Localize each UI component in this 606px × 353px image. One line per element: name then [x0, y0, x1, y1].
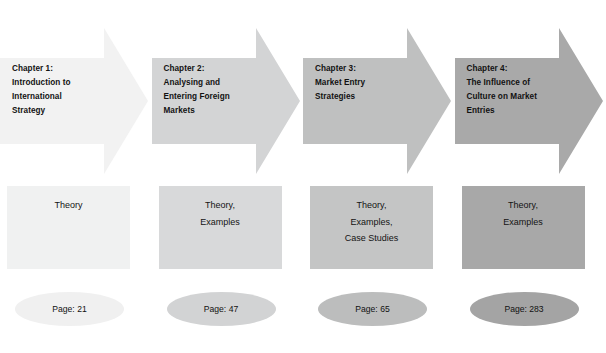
chapter-content-box-2[interactable]: Theory, Examples [159, 186, 282, 269]
chapter-content-label-4: Theory, Examples [462, 197, 585, 230]
chapter-column-3: Chapter 3: Market Entry StrategiesTheory… [303, 0, 455, 353]
chapter-page-label-1: Page: 21 [15, 292, 124, 326]
chapter-page-ellipse-3[interactable]: Page: 65 [318, 292, 427, 326]
chapter-page-ellipse-1[interactable]: Page: 21 [15, 292, 124, 326]
chapter-column-4: Chapter 4: The Influence of Culture on M… [455, 0, 606, 353]
chapter-column-1: Chapter 1: Introduction to International… [0, 0, 152, 353]
chapter-column-2: Chapter 2: Analysing and Entering Foreig… [152, 0, 304, 353]
chapter-arrow-label-1: Chapter 1: Introduction to International… [12, 62, 120, 118]
chapter-arrow-3[interactable]: Chapter 3: Market Entry Strategies [303, 22, 455, 180]
chapter-page-ellipse-4[interactable]: Page: 283 [470, 292, 579, 326]
chapter-arrow-1[interactable]: Chapter 1: Introduction to International… [0, 22, 152, 180]
chapter-page-ellipse-2[interactable]: Page: 47 [167, 292, 276, 326]
chapter-content-label-2: Theory, Examples [159, 197, 282, 230]
chapter-page-label-3: Page: 65 [318, 292, 427, 326]
chapter-roadmap-diagram: Chapter 1: Introduction to International… [0, 0, 606, 353]
chapter-arrow-4[interactable]: Chapter 4: The Influence of Culture on M… [455, 22, 606, 180]
chapter-content-label-1: Theory [7, 197, 130, 214]
chapter-arrow-label-4: Chapter 4: The Influence of Culture on M… [467, 62, 575, 118]
chapter-arrow-label-3: Chapter 3: Market Entry Strategies [315, 62, 423, 104]
chapter-arrow-label-2: Chapter 2: Analysing and Entering Foreig… [164, 62, 272, 118]
chapter-content-box-3[interactable]: Theory, Examples, Case Studies [310, 186, 433, 269]
chapter-content-box-4[interactable]: Theory, Examples [462, 186, 585, 269]
chapter-content-label-3: Theory, Examples, Case Studies [310, 197, 433, 247]
chapter-page-label-4: Page: 283 [470, 292, 579, 326]
chapter-content-box-1[interactable]: Theory [7, 186, 130, 269]
chapter-arrow-2[interactable]: Chapter 2: Analysing and Entering Foreig… [152, 22, 304, 180]
chapter-page-label-2: Page: 47 [167, 292, 276, 326]
